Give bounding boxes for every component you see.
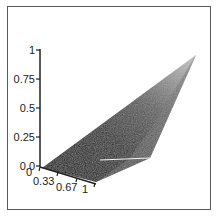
x-tick-0: 0 [26,166,32,178]
x-tick-0-67: 0.67 [56,181,77,193]
z-tick-0-75: 0.75 [14,73,35,85]
surface-mesh [42,55,196,182]
z-tick-0-25: 0.25 [14,131,35,143]
surface-plot: 1 0.75 0.5 0.25 0.0 0 0.33 0.67 1 [0,0,220,216]
x-tick-0-33: 0.33 [33,175,54,187]
z-axis-tick-labels: 1 0.75 0.5 0.25 0.0 [14,44,35,172]
z-tick-1: 1 [29,44,35,56]
z-tick-0-5: 0.5 [20,102,35,114]
x-tick-1: 1 [82,183,88,195]
